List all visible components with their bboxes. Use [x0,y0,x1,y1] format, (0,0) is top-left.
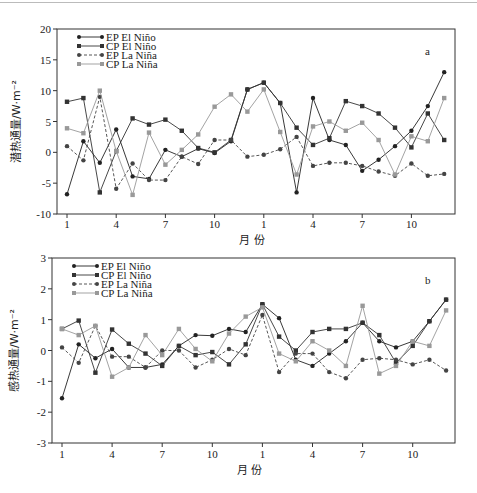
data-point-square [110,375,114,379]
data-point-square [245,87,249,91]
legend-marker-square [77,44,81,48]
data-point-circle [110,354,114,358]
data-point-circle [376,169,380,173]
data-point-square [377,333,381,337]
data-point-circle [77,361,81,365]
data-point-square [327,327,331,331]
data-point-circle [110,347,114,351]
data-point-circle [442,172,446,176]
data-point-circle [143,365,147,369]
data-point-circle [360,164,364,168]
data-point-circle [393,144,397,148]
data-point-square [127,365,131,369]
series-cp-la-ni-a [60,304,449,379]
series-ep-el-ni-o [60,297,449,400]
y-tick-label: -5 [42,177,52,189]
data-point-square [344,364,348,368]
y-tick-label: -10 [36,208,51,220]
x-tick-label: 1 [260,448,266,460]
x-tick-label: 4 [310,218,316,230]
data-point-circle [394,345,398,349]
data-point-square [377,371,381,375]
data-point-circle [93,356,97,360]
data-point-circle [229,138,233,142]
legend: EP El NiñoCP El NiñoEP La NiñaCP La Niña [77,31,158,70]
chart-panel-b: -3-2-101231471014710月 份感热通量/W·m⁻²bEP El … [8,252,455,477]
data-point-square [98,190,102,194]
panel-label: b [425,274,431,286]
legend-marker-circle [77,53,81,57]
data-point-circle [426,104,430,108]
data-point-circle [427,358,431,362]
data-point-circle [196,162,200,166]
data-point-square [210,350,214,354]
data-point-circle [114,127,118,131]
series-ep-el-ni-o [65,70,447,196]
data-point-square [294,125,298,129]
data-point-square [277,334,281,338]
data-point-square [262,80,266,84]
data-point-circle [244,330,248,334]
data-point-square [260,305,264,309]
data-point-square [193,347,197,351]
data-point-circle [227,347,231,351]
data-point-square [143,351,147,355]
data-point-square [227,331,231,335]
legend-marker-square [77,62,81,66]
y-tick-label: 10 [40,85,52,97]
x-tick-label: 7 [360,448,366,460]
data-point-circle [442,70,446,74]
data-point-circle [277,370,281,374]
data-point-circle [177,348,181,352]
series-cp-el-ni-o [65,80,447,194]
data-point-square [177,344,181,348]
data-point-square [160,353,164,357]
data-point-circle [60,345,64,349]
data-point-circle [180,154,184,158]
data-point-square [180,148,184,152]
data-point-square [210,359,214,363]
data-point-square [93,371,97,375]
data-point-circle [65,192,69,196]
data-point-circle [81,158,85,162]
data-point-circle [310,351,314,355]
data-point-square [227,362,231,366]
series-ep-la-ni-a [65,95,447,191]
data-point-square [327,136,331,140]
data-point-square [163,117,167,121]
data-point-circle [210,334,214,338]
data-point-circle [426,174,430,178]
data-point-square [393,125,397,129]
legend-marker-square [95,291,99,295]
legend-marker-square [100,44,104,48]
data-point-circle [193,333,197,337]
y-tick-label: 2 [41,283,47,295]
data-point-square [98,88,102,92]
legend-marker-circle [95,264,99,268]
data-point-square [77,318,81,322]
x-tick-label: 10 [406,218,418,230]
data-point-square [130,116,134,120]
x-axis-title: 月 份 [237,464,263,477]
y-tick-label: 0 [41,345,47,357]
chart-panel-a: -10-5051015201471014710月 份潜热通量/W·m⁻²aEP … [9,23,455,247]
y-tick-label: 3 [41,252,47,264]
data-point-square [409,134,413,138]
data-point-circle [260,313,264,317]
data-point-square [193,353,197,357]
legend-marker-square [95,273,99,277]
legend-marker-circle [72,282,76,286]
data-point-circle [130,174,134,178]
x-tick-label: 1 [261,218,267,230]
data-point-circle [409,129,413,133]
y-axis-title: 潜热通量/W·m⁻² [9,80,23,163]
panel-label: a [425,45,430,57]
data-point-square [77,333,81,337]
data-point-square [278,130,282,134]
data-point-square [442,96,446,100]
data-point-square [426,139,430,143]
data-point-circle [327,161,331,165]
data-point-square [212,150,216,154]
data-point-circle [344,376,348,380]
legend-marker-square [100,62,104,66]
